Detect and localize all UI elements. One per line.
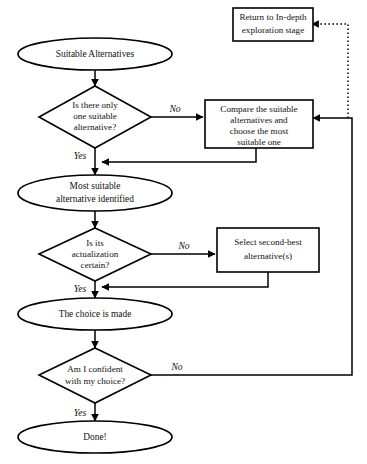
node-choice-made: The choice is made: [18, 298, 172, 330]
node-compare-box: Compare the suitable alternatives and ch…: [205, 100, 313, 148]
edge-label-yes-confident: Yes: [74, 407, 87, 418]
node-done: Done!: [18, 421, 172, 453]
second-best-line2: alternative(s): [244, 251, 292, 261]
decision-one-line2: one suitable: [73, 111, 117, 121]
most-suitable-line2: alternative identified: [56, 194, 134, 204]
flowchart-container: Suitable Alternatives Is there only one …: [0, 0, 367, 464]
decision-one-line3: alternative?: [74, 122, 116, 132]
decision-actualization-line2: actualization: [72, 249, 119, 259]
edge-second-best-return: [102, 272, 268, 287]
decision-confident-line2: with my choice?: [65, 376, 125, 386]
choice-made-label: The choice is made: [59, 309, 132, 319]
flowchart-canvas: Suitable Alternatives Is there only one …: [0, 0, 367, 464]
node-decision-confident: Am I confident with my choice?: [39, 348, 151, 403]
node-return-box: Return to In-depth exploration stage: [233, 8, 313, 41]
edge-label-no-confident: No: [170, 361, 182, 372]
compare-box-line1: Compare the suitable: [220, 104, 297, 114]
decision-actualization-line3: certain?: [81, 260, 110, 270]
compare-box-line2: alternatives and: [230, 115, 288, 125]
edge-label-yes-one: Yes: [74, 150, 87, 161]
start-label: Suitable Alternatives: [56, 49, 135, 59]
node-start: Suitable Alternatives: [18, 38, 172, 70]
decision-actualization-line1: Is its: [86, 238, 104, 248]
node-second-best-box: Select second-best alternative(s): [217, 228, 319, 272]
edge-dotted-return-to-exploration: [312, 24, 348, 118]
edge-label-yes-actualization: Yes: [74, 283, 87, 294]
second-best-box-rect: [217, 228, 319, 272]
return-box-line1: Return to In-depth: [239, 12, 307, 22]
edge-label-no-actualization: No: [177, 240, 189, 251]
decision-confident-line1: Am I confident: [67, 364, 123, 374]
compare-box-line3: choose the most: [230, 126, 289, 136]
node-decision-one: Is there only one suitable alternative?: [39, 86, 151, 148]
second-best-line1: Select second-best: [234, 237, 302, 247]
edge-label-no-one: No: [168, 103, 180, 114]
decision-one-line1: Is there only: [72, 100, 118, 110]
edge-compare-return: [102, 148, 256, 162]
return-box-line2: exploration stage: [242, 25, 304, 35]
node-most-suitable: Most suitable alternative identified: [18, 175, 172, 211]
most-suitable-line1: Most suitable: [70, 181, 121, 191]
compare-box-line4: suitable one: [237, 137, 281, 147]
done-label: Done!: [83, 432, 106, 442]
node-decision-actualization: Is its actualization certain?: [39, 228, 151, 281]
